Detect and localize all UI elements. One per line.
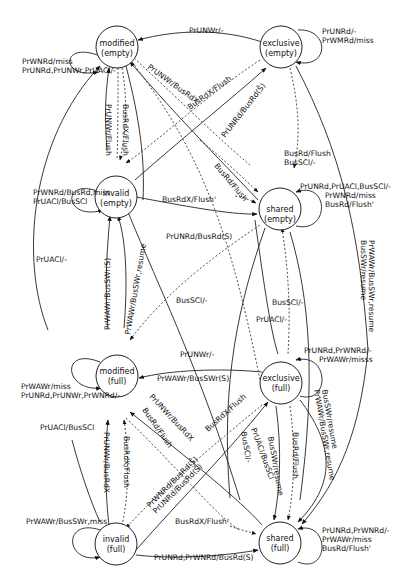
svg-text:(empty): (empty)	[100, 199, 132, 208]
edge-ie-ee	[135, 68, 266, 180]
svg-text:BusRdX/Flush: BusRdX/Flush	[203, 392, 248, 434]
svg-text:BusRdX/Flush: BusRdX/Flush	[122, 436, 131, 488]
state-invalid-full: invalid (full)	[95, 523, 137, 565]
state-shared-full: shared (full)	[259, 522, 301, 564]
svg-text:PrUNRd/-: PrUNRd/-	[322, 27, 356, 36]
svg-text:BusSWr/resume: BusSWr/resume	[359, 240, 368, 300]
svg-text:PrWNRd/miss: PrWNRd/miss	[325, 191, 376, 200]
svg-text:BusRd/Flush': BusRd/Flush'	[322, 544, 371, 553]
svg-text:exclusive: exclusive	[262, 374, 299, 383]
svg-text:BusRd/Flush: BusRd/Flush	[284, 149, 331, 158]
state-exclusive-empty: exclusive (empty)	[260, 26, 302, 68]
svg-text:shared: shared	[266, 534, 293, 543]
svg-text:PrWNRd/miss: PrWNRd/miss	[22, 57, 73, 66]
svg-text:PrWAWr/miss: PrWAWr/miss	[21, 382, 71, 391]
svg-text:BusSCl/-: BusSCl/-	[239, 431, 253, 464]
svg-text:PrWNRd/BusRd,miss: PrWNRd/BusRd,miss	[33, 188, 110, 197]
svg-text:(full): (full)	[107, 545, 126, 554]
svg-text:PrWAWr/BusSWr(S): PrWAWr/BusSWr(S)	[103, 258, 112, 330]
svg-text:PrUNRd/BusRd(S̄): PrUNRd/BusRd(S̄)	[219, 81, 267, 139]
svg-text:PrWAWr/BusSWr(S): PrWAWr/BusSWr(S)	[157, 374, 229, 383]
svg-text:BusRd/Flush: BusRd/Flush	[212, 162, 249, 204]
edge-labels: PrUNWr/- PrUNWr/BusRdX BusRdX/Flush PrUN…	[36, 26, 376, 562]
svg-text:PrUACl/-: PrUACl/-	[36, 255, 67, 264]
state-shared-empty: shared (empty)	[259, 188, 301, 230]
svg-text:PrUACl/BusSCl: PrUACl/BusSCl	[40, 423, 94, 432]
svg-text:modified: modified	[99, 367, 134, 376]
svg-text:PrWNRd/BusRd(S̄): PrWNRd/BusRd(S̄)	[145, 455, 200, 510]
svg-text:PrUNRd,PrWNRd/-: PrUNRd,PrWNRd/-	[304, 346, 372, 355]
svg-text:PrWAWr/BusSWr,resume: PrWAWr/BusSWr,resume	[367, 240, 376, 333]
svg-text:PrUNRd/BusRd(S): PrUNRd/BusRd(S)	[166, 232, 232, 241]
svg-text:invalid: invalid	[103, 535, 129, 544]
svg-text:shared: shared	[266, 205, 293, 214]
svg-text:PrWMRd/miss: PrWMRd/miss	[322, 36, 374, 45]
state-exclusive-full: exclusive (full)	[260, 362, 302, 404]
svg-text:(empty): (empty)	[265, 49, 297, 58]
svg-text:BusSCl/-: BusSCl/-	[272, 298, 304, 307]
svg-text:BusRd/Flush: BusRd/Flush	[291, 432, 300, 479]
edge-me-ie-dash2	[117, 68, 118, 160]
edge-busscl-ef	[282, 228, 289, 354]
svg-text:modified: modified	[99, 39, 134, 48]
svg-text:BusSCl/-: BusSCl/-	[284, 158, 316, 167]
edge-if-sf-busrdx	[230, 526, 256, 534]
svg-text:BusSCl/-: BusSCl/-	[176, 296, 208, 305]
svg-text:PrUNWr/-: PrUNWr/-	[189, 26, 224, 35]
svg-text:PrWAWr/misss: PrWAWr/misss	[319, 355, 373, 364]
svg-text:PrUACl/-: PrUACl/-	[256, 315, 287, 324]
svg-text:(full): (full)	[271, 544, 290, 553]
svg-text:(empty): (empty)	[101, 49, 133, 58]
svg-text:PrWAWr/BusSWr,miss: PrWAWr/BusSWr,miss	[26, 517, 107, 526]
svg-text:BusRd/Flush': BusRd/Flush'	[325, 200, 374, 209]
state-invalid-empty: invalid (empty)	[95, 176, 137, 218]
svg-text:PrUNRd,PrWNRd/-: PrUNRd,PrWNRd/-	[322, 526, 390, 535]
svg-text:PrUNRd,PrUNWr,PrWNRd/-: PrUNRd,PrUNWr,PrWNRd/-	[21, 391, 120, 400]
state-modified-empty: modified (empty)	[96, 26, 138, 68]
svg-text:BusRdX/Flush': BusRdX/Flush'	[175, 517, 229, 526]
svg-text:PrUNRd,PrUACl,BusSCl/-: PrUNRd,PrUACl,BusSCl/-	[300, 182, 391, 191]
svg-text:PrWAWr/BusSWr,resume: PrWAWr/BusSWr,resume	[123, 243, 148, 336]
svg-text:PrWAWr/miss: PrWAWr/miss	[322, 535, 372, 544]
svg-text:PrUNWr/-: PrUNWr/-	[180, 350, 215, 359]
svg-text:PrUNWr/BusRdX: PrUNWr/BusRdX	[102, 432, 111, 493]
svg-text:BusRdX/Flush': BusRdX/Flush'	[162, 195, 216, 204]
edge-me-diag	[130, 62, 258, 200]
edges	[33, 32, 368, 557]
svg-text:(full): (full)	[108, 377, 127, 386]
edge-mf-ie-2	[118, 216, 126, 328]
svg-text:PrUACl/BusSCl: PrUACl/BusSCl	[33, 197, 87, 206]
svg-text:PrUNRd,PrWNRd/BusRd(S): PrUNRd,PrWNRd/BusRd(S)	[154, 553, 254, 562]
svg-text:(full): (full)	[272, 384, 291, 393]
svg-text:BusRdX/Flush: BusRdX/Flush	[121, 104, 130, 156]
svg-text:(empty): (empty)	[264, 215, 296, 224]
svg-text:exclusive: exclusive	[262, 39, 299, 48]
svg-text:PrUNWr/Flush: PrUNWr/Flush	[104, 104, 113, 156]
edge-mf-if-uacl	[72, 440, 100, 522]
edge-busscl-mf	[130, 225, 260, 340]
edge-puacl-ef	[255, 220, 278, 354]
state-diagram: modified (empty) exclusive (empty) inval…	[0, 0, 404, 584]
edge-me-dash-diag	[134, 58, 250, 165]
svg-text:PrUNRd,PrUNWr,PrUACl/-: PrUNRd,PrUNWr,PrUACl/-	[22, 66, 116, 75]
